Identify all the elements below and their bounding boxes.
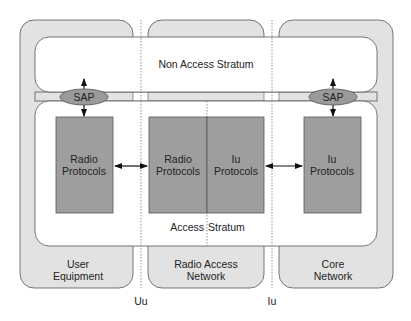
iu-interface-label: Iu [268,295,277,307]
ue-label-2: Equipment [53,270,103,282]
sap-left-label: SAP [73,91,94,103]
access-stratum-label-left: Access [170,221,204,233]
ue-label-1: User [67,258,90,270]
ran-radio-protocols-label-1: Radio [164,153,192,165]
stratum-diagram: Non Access Stratum Access Stratum Radio … [0,0,411,321]
cn-label-1: Core [322,258,345,270]
cn-label-2: Network [314,270,353,282]
cn-iu-protocols-label-2: Protocols [310,165,354,177]
ran-label-1: Radio Access [174,258,238,270]
cn-iu-protocols-label-1: Iu [328,153,337,165]
sap-right-label: SAP [322,91,343,103]
ran-radio-protocols-label-2: Protocols [156,165,200,177]
band-gap-uu [133,92,148,101]
ran-iu-protocols-label-1: Iu [232,153,241,165]
access-stratum-label-right: Stratum [208,221,245,233]
band-gap-iu [264,92,279,101]
non-access-stratum-label: Non Access Stratum [158,58,253,70]
uu-interface-label: Uu [134,295,148,307]
ran-iu-protocols-label-2: Protocols [214,165,258,177]
ran-label-2: Network [187,270,226,282]
ue-radio-protocols-label-1: Radio [70,153,98,165]
ue-radio-protocols-label-2: Protocols [62,165,106,177]
